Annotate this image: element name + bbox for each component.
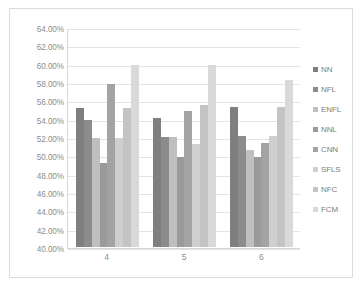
- legend-item-enfl[interactable]: ENFL: [313, 104, 341, 114]
- bar-sfls-4[interactable]: [115, 138, 123, 247]
- legend: NNNFLENFLNNLCNNSFLSNFCFCM: [313, 64, 353, 224]
- y-axis-tick-label: 50.00%: [16, 153, 64, 162]
- x-axis-tick-label: 6: [223, 252, 300, 262]
- legend-swatch-icon: [313, 207, 318, 212]
- y-axis-tick-label: 42.00%: [16, 226, 64, 235]
- plot-wrapper: 64.00%62.00%60.00%58.00%56.00%54.00%52.0…: [10, 9, 310, 277]
- legend-item-nnl[interactable]: NNL: [313, 124, 337, 134]
- y-axis: 64.00%62.00%60.00%58.00%56.00%54.00%52.0…: [16, 29, 64, 249]
- y-axis-tick-label: 48.00%: [16, 171, 64, 180]
- y-axis-tick-label: 54.00%: [16, 116, 64, 125]
- bar-nfc-5[interactable]: [200, 105, 208, 247]
- legend-swatch-icon: [313, 87, 318, 92]
- bar-cnn-6[interactable]: [261, 143, 269, 247]
- legend-swatch-icon: [313, 187, 318, 192]
- bar-nn-4[interactable]: [76, 108, 84, 247]
- bar-nnl-6[interactable]: [254, 157, 262, 247]
- y-axis-tick-label: 44.00%: [16, 208, 64, 217]
- legend-item-nfl[interactable]: NFL: [313, 84, 336, 94]
- legend-swatch-icon: [313, 147, 318, 152]
- bar-group: [69, 29, 146, 247]
- bar-enfl-5[interactable]: [169, 137, 177, 247]
- legend-item-fcm[interactable]: FCM: [313, 204, 338, 214]
- legend-label: FCM: [321, 205, 338, 214]
- gridline: [68, 249, 300, 250]
- legend-item-nn[interactable]: NN: [313, 64, 332, 74]
- y-axis-tick-label: 40.00%: [16, 245, 64, 254]
- bar-group-inner: [76, 29, 140, 247]
- bar-sfls-6[interactable]: [269, 136, 277, 247]
- y-axis-tick-label: 62.00%: [16, 43, 64, 52]
- y-axis-tick-label: 52.00%: [16, 135, 64, 144]
- plot-area: [67, 29, 300, 249]
- x-axis: 456: [68, 252, 300, 262]
- bar-nnl-4[interactable]: [100, 163, 108, 247]
- bar-nn-5[interactable]: [153, 118, 161, 247]
- y-axis-tick-label: 58.00%: [16, 80, 64, 89]
- bar-nn-6[interactable]: [230, 107, 238, 247]
- bar-group-inner: [153, 29, 217, 247]
- legend-swatch-icon: [313, 127, 318, 132]
- y-axis-tick-label: 46.00%: [16, 190, 64, 199]
- y-axis-tick-label: 60.00%: [16, 61, 64, 70]
- legend-label: CNN: [321, 145, 338, 154]
- bar-cnn-4[interactable]: [107, 84, 115, 248]
- legend-item-sfls[interactable]: SFLS: [313, 164, 341, 174]
- bar-nfl-5[interactable]: [161, 137, 169, 247]
- bar-nfl-4[interactable]: [84, 120, 92, 247]
- bar-nfc-4[interactable]: [123, 108, 131, 247]
- bar-group-inner: [230, 29, 294, 247]
- legend-label: NN: [321, 65, 332, 74]
- bar-nnl-5[interactable]: [177, 157, 185, 247]
- bar-enfl-6[interactable]: [246, 150, 254, 247]
- x-axis-tick-label: 4: [68, 252, 145, 262]
- y-axis-tick-label: 56.00%: [16, 98, 64, 107]
- bar-fcm-5[interactable]: [208, 65, 216, 247]
- bar-fcm-4[interactable]: [131, 65, 139, 247]
- bar-cnn-5[interactable]: [184, 111, 192, 247]
- y-axis-tick-label: 64.00%: [16, 25, 64, 34]
- legend-label: SFLS: [321, 165, 341, 174]
- legend-label: NFL: [321, 85, 336, 94]
- bar-nfl-6[interactable]: [238, 136, 246, 247]
- bar-sfls-5[interactable]: [192, 144, 200, 247]
- legend-swatch-icon: [313, 167, 318, 172]
- legend-item-cnn[interactable]: CNN: [313, 144, 338, 154]
- legend-label: NFC: [321, 185, 337, 194]
- bar-group: [146, 29, 223, 247]
- legend-swatch-icon: [313, 107, 318, 112]
- bar-nfc-6[interactable]: [277, 107, 285, 247]
- bar-fcm-6[interactable]: [285, 80, 293, 247]
- chart-frame: 64.00%62.00%60.00%58.00%56.00%54.00%52.0…: [9, 8, 353, 278]
- bar-groups: [69, 29, 300, 247]
- legend-label: NNL: [321, 125, 337, 134]
- legend-swatch-icon: [313, 67, 318, 72]
- bar-group: [223, 29, 300, 247]
- bar-enfl-4[interactable]: [92, 138, 100, 247]
- legend-label: ENFL: [321, 105, 341, 114]
- x-axis-tick-label: 5: [145, 252, 222, 262]
- legend-item-nfc[interactable]: NFC: [313, 184, 337, 194]
